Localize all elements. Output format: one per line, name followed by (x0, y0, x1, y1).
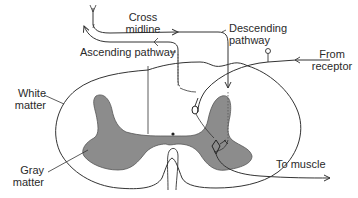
white-matter-label: White matter (8, 87, 46, 111)
to-muscle-label: To muscle (276, 158, 326, 170)
ascending-pathway-label: Ascending pathway (80, 46, 175, 58)
white-matter-leader (44, 95, 64, 104)
spinal-cord-diagram: Cross midline Descending pathway Ascendi… (0, 0, 358, 198)
gray-matter-label: Gray matter (6, 164, 44, 188)
descending-pathway-label: Descending pathway (229, 22, 287, 46)
from-receptor-label: From receptor (306, 48, 358, 72)
cross-midline-label: Cross midline (118, 11, 168, 35)
receptor-ganglion (266, 49, 271, 54)
central-canal (171, 132, 174, 135)
